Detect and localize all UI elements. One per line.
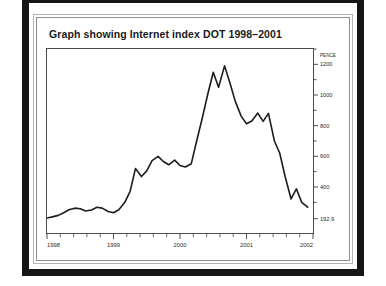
plot-shell: 12001000800600400192.9 PENCE 19981999200…: [46, 48, 346, 253]
frame-bar-bottom: [22, 269, 364, 276]
chart-card-outer-rule: Graph showing Internet index DOT 1998–20…: [33, 14, 353, 264]
y-tick-label: 800: [320, 123, 329, 129]
x-tick-label: 2002: [300, 242, 313, 248]
frame-bar-right: [357, 0, 364, 276]
chart-card-inner-rule: Graph showing Internet index DOT 1998–20…: [36, 17, 350, 261]
x-tick-label: 1999: [107, 242, 120, 248]
series-line-internet-index-dot: [47, 49, 313, 233]
figure-container: Graph showing Internet index DOT 1998–20…: [0, 0, 386, 286]
frame-bar-left: [22, 0, 29, 276]
chart-title: Graph showing Internet index DOT 1998–20…: [49, 28, 282, 40]
y-tick-label: 600: [320, 153, 329, 159]
x-tick-label: 2000: [174, 242, 187, 248]
y-axis: 12001000800600400192.9 PENCE: [314, 48, 348, 234]
x-axis: 19981999200020012002: [46, 234, 348, 256]
y-tick-label: 1200: [320, 61, 332, 67]
y-axis-caption: PENCE: [320, 53, 336, 58]
x-tick-label: 2001: [240, 242, 253, 248]
y-tick-label: 1000: [320, 92, 332, 98]
y-tick-label: 400: [320, 184, 329, 190]
x-tick-label: 1998: [47, 242, 60, 248]
y-tick-label: 192.9: [320, 216, 334, 222]
